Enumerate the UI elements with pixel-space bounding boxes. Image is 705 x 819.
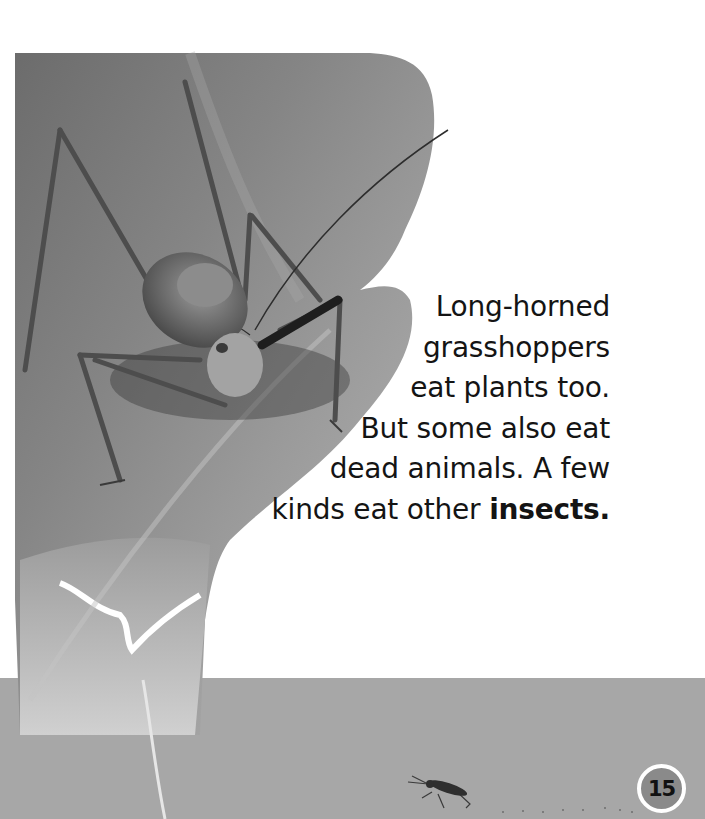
body-text-line: But some also eat (200, 409, 610, 450)
body-text-line: grasshoppers (200, 328, 610, 369)
body-text-line: kinds eat other (272, 493, 490, 526)
grasshopper-icon (400, 768, 640, 816)
book-page: Long-horned grasshoppers eat plants too.… (0, 0, 705, 819)
page-number: 15 (637, 764, 686, 813)
body-text-line-last: kinds eat other insects. (200, 490, 610, 531)
body-text-line: dead animals. A few (200, 449, 610, 490)
body-text-line: Long-horned (200, 287, 610, 328)
body-text: Long-horned grasshoppers eat plants too.… (200, 287, 610, 530)
body-text-line: eat plants too. (200, 368, 610, 409)
glossary-word: insects. (489, 493, 610, 526)
